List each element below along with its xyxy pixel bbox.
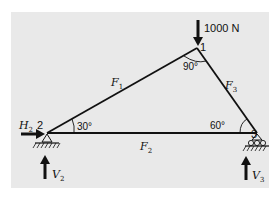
angle-node3-label: 60° bbox=[210, 120, 225, 131]
member-f1-label: F1 bbox=[110, 76, 123, 91]
angle-arc-node3 bbox=[240, 119, 247, 133]
v2-label: V2 bbox=[52, 168, 64, 183]
node-3-label: 3 bbox=[251, 128, 257, 140]
truss-diagram: 1000 N 1 2 3 90° 30° 60° F1 F2 F3 H2 V2 … bbox=[0, 0, 280, 200]
angle-node1-label: 90° bbox=[183, 61, 198, 72]
node-1-label: 1 bbox=[200, 41, 206, 53]
angle-arc-node2 bbox=[72, 119, 74, 133]
member-f3-label: F3 bbox=[224, 79, 237, 94]
v3-label: V3 bbox=[252, 169, 264, 184]
v2-reaction-arrow bbox=[40, 155, 50, 179]
applied-load-label: 1000 N bbox=[204, 22, 240, 34]
h2-label: H2 bbox=[18, 119, 33, 134]
member-f2-label: F2 bbox=[139, 140, 152, 155]
node-2-label: 2 bbox=[37, 119, 43, 131]
v3-reaction-arrow bbox=[241, 156, 251, 180]
angle-node2-label: 30° bbox=[77, 121, 92, 132]
